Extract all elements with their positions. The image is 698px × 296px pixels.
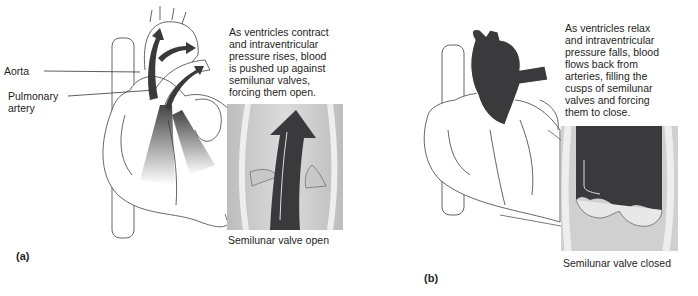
panel-a-desc-line: forcing them open. <box>229 86 359 98</box>
label-pulmonary-artery-line1: Pulmonary <box>8 90 58 102</box>
inset-caption-valve-open: Semilunar valve open <box>228 234 329 246</box>
panel-b-desc-line: and intraventricular <box>565 34 695 46</box>
panel-b-letter: (b) <box>424 272 438 284</box>
panel-a-desc-line: and intraventricular <box>229 38 359 50</box>
panel-a-description: As ventricles contract and intraventricu… <box>229 26 359 98</box>
panel-a-desc-line: semilunar valves, <box>229 74 359 86</box>
panel-b-desc-line: arteries, filling the <box>565 70 695 82</box>
inset-caption-valve-closed: Semilunar valve closed <box>563 257 671 269</box>
panel-b-desc-line: flows back from <box>565 58 695 70</box>
label-pulmonary-artery-line2: artery <box>8 102 35 114</box>
panel-b-desc-line: pressure falls, blood <box>565 46 695 58</box>
valve-closed-inset <box>561 126 678 251</box>
panel-a-desc-line: As ventricles contract <box>229 26 359 38</box>
panel-a-desc-line: pressure rises, blood <box>229 50 359 62</box>
label-aorta: Aorta <box>4 65 29 77</box>
panel-b-desc-line: valves and forcing <box>565 94 695 106</box>
panel-a-desc-line: is pushed up against <box>229 62 359 74</box>
panel-a-letter: (a) <box>16 250 29 262</box>
panel-b-description: As ventricles relax and intraventricular… <box>565 22 695 118</box>
panel-b-desc-line: As ventricles relax <box>565 22 695 34</box>
panel-b-desc-line: cusps of semilunar <box>565 82 695 94</box>
valve-open-inset <box>227 104 343 230</box>
panel-b-desc-line: them to close. <box>565 106 695 118</box>
